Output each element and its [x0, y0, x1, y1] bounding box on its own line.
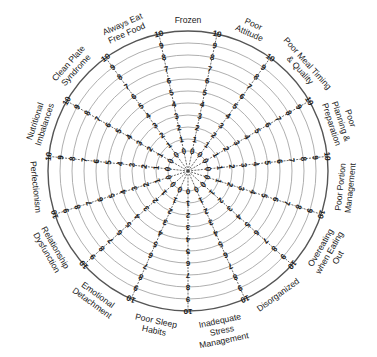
scale-number: 0 — [176, 184, 184, 194]
scale-number: 6 — [221, 250, 229, 260]
scale-number: 9 — [72, 102, 82, 111]
scale-number: 3 — [216, 121, 225, 131]
scale-number: 7 — [273, 115, 283, 124]
scale-number: 5 — [252, 127, 262, 136]
scale-number: 7 — [122, 82, 131, 92]
scale-number: 4 — [144, 111, 153, 121]
scale-number: 0 — [192, 184, 200, 194]
scale-number: 1 — [171, 195, 179, 205]
scale-number: 10 — [61, 94, 74, 107]
scale-number: 10 — [212, 29, 223, 40]
scale-number: 6 — [270, 196, 280, 204]
scale-number: 1 — [211, 151, 221, 160]
scale-number: 7 — [93, 114, 103, 123]
scale-number: 3 — [173, 111, 180, 121]
scale-number: 2 — [176, 123, 183, 133]
scale-number: 8 — [252, 72, 261, 82]
scale-number: 8 — [73, 203, 83, 211]
scale-number: 5 — [185, 247, 190, 256]
scale-number: 4 — [156, 228, 164, 238]
scale-number: 2 — [225, 181, 235, 189]
scale-number: 0 — [200, 157, 210, 166]
scale-number: 10 — [99, 51, 112, 64]
wheel-diagram: 0123456789100123456789100123456789100123… — [0, 0, 377, 357]
scale-number: 7 — [185, 271, 190, 280]
scale-number: 0 — [164, 173, 174, 181]
scale-number: 4 — [211, 228, 219, 238]
scale-number: 6 — [263, 121, 273, 130]
scale-number: 3 — [151, 120, 160, 130]
scale-number: 10 — [315, 209, 326, 221]
scale-number: 10 — [154, 29, 165, 40]
scale-number: 1 — [152, 177, 162, 185]
scale-number: 4 — [118, 188, 128, 196]
scale-number: 9 — [305, 207, 315, 215]
scale-number: 6 — [166, 76, 173, 86]
scale-number: 8 — [209, 53, 216, 63]
category-label: InadequateStressManagement — [198, 311, 250, 350]
scale-number: 9 — [185, 295, 190, 304]
svg-text:Perfectionism: Perfectionism — [28, 161, 43, 214]
scale-number: 1 — [155, 150, 165, 159]
category-label: PoorAttitude — [234, 16, 265, 44]
scale-number: 1 — [165, 140, 174, 150]
scale-number: 3 — [161, 217, 169, 227]
category-label: RelationshipDysfunction — [31, 225, 71, 275]
assessment-wheel: 0123456789100123456789100123456789100123… — [0, 0, 377, 357]
scale-number: 5 — [137, 101, 146, 111]
scale-number: 2 — [202, 206, 210, 216]
scale-number: 10 — [322, 151, 332, 161]
scale-number: 9 — [158, 41, 165, 51]
scale-number: 7 — [282, 200, 292, 208]
scale-number: 4 — [124, 132, 134, 141]
scale-number: 6 — [185, 259, 190, 268]
scale-number: 1 — [192, 135, 199, 145]
scale-number: 8 — [115, 72, 124, 82]
scale-number: 2 — [194, 123, 201, 133]
svg-text:Frozen: Frozen — [175, 15, 202, 25]
scale-number: 3 — [231, 139, 241, 148]
scale-number: 6 — [146, 250, 154, 260]
category-label: PoorPlanning &Preparation — [320, 100, 358, 147]
scale-number: 4 — [224, 111, 233, 121]
scale-number: 9 — [108, 62, 117, 72]
scale-number: 8 — [293, 203, 303, 211]
scale-number: 4 — [248, 189, 258, 197]
category-label: Poor SleepHabits — [134, 311, 178, 338]
scale-number: 0 — [189, 147, 196, 157]
scale-number: 10 — [183, 307, 192, 316]
scale-number: 10 — [239, 293, 251, 305]
scale-number: 0 — [172, 150, 181, 160]
category-label: Perfectionism — [28, 161, 43, 214]
scale-number: 6 — [204, 76, 211, 86]
scale-number: 1 — [197, 195, 205, 205]
scale-number: 10 — [125, 293, 137, 305]
scale-number: 5 — [216, 239, 224, 249]
scale-number: 8 — [136, 272, 144, 282]
scale-number: 5 — [168, 88, 175, 98]
scale-number: 3 — [130, 184, 140, 192]
scale-number: 8 — [185, 283, 190, 292]
scale-number: 7 — [84, 199, 94, 207]
category-label: Clean PlateSyndrome — [50, 43, 93, 88]
scale-number: 9 — [294, 103, 304, 112]
scale-number: 3 — [185, 223, 190, 232]
scale-number: 7 — [245, 82, 254, 92]
scale-number: 5 — [202, 88, 209, 98]
scale-number: 8 — [231, 272, 239, 282]
scale-number: 4 — [199, 100, 206, 110]
scale-number: 1 — [185, 199, 190, 208]
scale-number: 0 — [185, 187, 190, 196]
category-label: Disorganized — [255, 276, 302, 314]
scale-number: 9 — [211, 41, 218, 51]
scale-number: 0 — [202, 174, 212, 182]
scale-number: 5 — [114, 126, 124, 135]
category-label: Frozen — [175, 15, 202, 25]
scale-number: 9 — [61, 207, 71, 215]
scale-number: 5 — [107, 192, 117, 200]
scale-number: 6 — [129, 91, 138, 101]
scale-number: 10 — [44, 151, 54, 161]
scale-number: 9 — [132, 283, 140, 293]
scale-number: 3 — [134, 138, 144, 147]
scale-number: 6 — [103, 120, 113, 129]
